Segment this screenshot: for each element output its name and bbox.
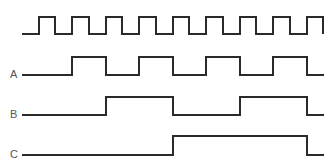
timing-diagram-canvas (0, 0, 336, 167)
clock-waveform (22, 17, 323, 34)
signal-b-label: B (10, 109, 17, 120)
signal-a-label: A (10, 69, 17, 80)
signal-c-waveform (22, 136, 324, 155)
signal-c-label: C (10, 149, 18, 160)
signal-a-waveform (22, 57, 324, 75)
signal-b-waveform (22, 97, 324, 115)
timing-diagram: A B C (0, 0, 336, 167)
